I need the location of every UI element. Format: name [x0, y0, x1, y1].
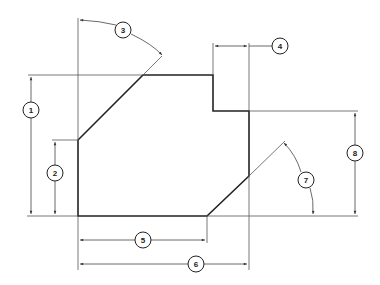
callout-2: 2 — [47, 165, 63, 181]
callout-1-label: 1 — [29, 106, 34, 115]
extension-lines — [27, 18, 358, 270]
callout-7: 7 — [298, 172, 314, 188]
callout-8: 8 — [347, 145, 363, 161]
callout-8-label: 8 — [353, 149, 358, 158]
callout-6-label: 6 — [194, 260, 199, 269]
callout-2-label: 2 — [53, 169, 58, 178]
callout-4-label: 4 — [278, 42, 283, 51]
callout-6: 6 — [188, 256, 204, 272]
callout-5: 5 — [135, 232, 151, 248]
callout-1: 1 — [23, 102, 39, 118]
callout-5-label: 5 — [141, 236, 146, 245]
callout-4: 4 — [272, 38, 288, 54]
part-outline — [78, 75, 249, 216]
callout-3: 3 — [115, 22, 131, 38]
dimension-lines — [31, 20, 355, 264]
callout-7-label: 7 — [304, 176, 309, 185]
technical-drawing: 1 2 3 4 5 6 7 8 — [0, 0, 380, 285]
callout-3-label: 3 — [121, 26, 126, 35]
